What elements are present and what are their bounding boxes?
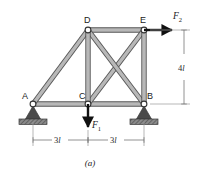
dimension-label-span-right: 3l <box>110 135 117 145</box>
support-A <box>19 106 47 125</box>
truss-figure: A C B D E F2 F1 4l 3l 3l <box>0 0 201 176</box>
joint-label-B: B <box>147 91 153 101</box>
load-label-F1: F1 <box>91 120 101 132</box>
figure-caption: (a) <box>85 158 96 168</box>
support-B <box>130 106 158 125</box>
joint-D <box>85 27 91 33</box>
dimension-label-span-left: 3l <box>54 135 61 145</box>
load-label-F2: F2 <box>172 11 182 23</box>
joint-label-E: E <box>140 15 146 25</box>
dimension-height-4l: 4l <box>150 30 190 104</box>
joint-label-C: C <box>79 91 86 101</box>
joint-label-A: A <box>22 91 28 101</box>
dimension-label-4l: 4l <box>178 63 185 73</box>
joint-label-D: D <box>84 15 91 25</box>
dimension-span-left: 3l <box>33 135 88 145</box>
joint-A <box>30 101 36 107</box>
joint-B <box>141 101 147 107</box>
truss-members <box>33 30 144 104</box>
dimension-span-right: 3l <box>88 135 144 145</box>
